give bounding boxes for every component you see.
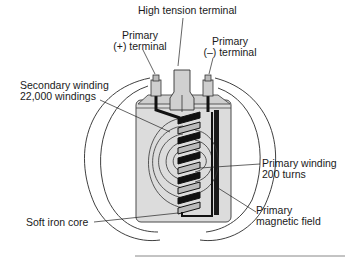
label-primary-plus-line2: (+) terminal	[110, 41, 170, 52]
label-primary-magnetic-field: Primary magnetic field	[256, 205, 321, 227]
label-secondary-winding-line2: 22,000 windings	[20, 91, 109, 102]
label-secondary-winding: Secondary winding 22,000 windings	[20, 80, 109, 102]
primary-minus-terminal	[203, 75, 213, 96]
label-primary-plus-terminal: Primary (+) terminal	[110, 30, 170, 52]
label-soft-iron-core: Soft iron core	[26, 217, 88, 228]
label-high-tension-terminal: High tension terminal	[138, 5, 237, 16]
label-primary-minus-terminal: Primary (–) terminal	[200, 36, 260, 58]
label-primary-field-line2: magnetic field	[256, 216, 321, 227]
label-primary-winding: Primary winding 200 turns	[262, 158, 337, 180]
label-primary-minus-line2: (–) terminal	[200, 47, 260, 58]
primary-plus-terminal	[151, 75, 161, 96]
label-primary-winding-line2: 200 turns	[262, 169, 337, 180]
high-tension-terminal	[170, 70, 194, 112]
